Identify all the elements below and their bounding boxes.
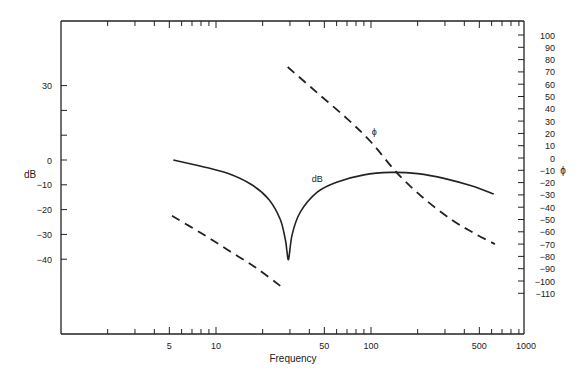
y2-tick-label: 30 xyxy=(545,117,555,127)
y2-tick-label: 10 xyxy=(545,141,555,151)
y2-tick-label: −100 xyxy=(535,277,555,287)
y2-tick-label: −70 xyxy=(540,240,555,250)
y2-tick-label: −90 xyxy=(540,264,555,274)
left-y-axis-label: dB xyxy=(24,169,37,180)
y2-tick-label: −20 xyxy=(540,178,555,188)
magnitude-curve xyxy=(173,160,494,260)
y2-tick-label: 50 xyxy=(545,92,555,102)
x-tick-label: 100 xyxy=(363,341,378,351)
y2-tick-label: 100 xyxy=(540,31,555,41)
x-tick-label: 10 xyxy=(211,341,221,351)
y2-tick-label: 90 xyxy=(545,43,555,53)
y2-tick-label: 60 xyxy=(545,80,555,90)
bode-plot: 510501005001000 300−10−20−30−40 10090807… xyxy=(0,0,579,381)
left-y-axis-ticks: 300−10−20−30−40 xyxy=(37,81,67,265)
inline-series-labels: dBϕ xyxy=(312,127,377,185)
series-label: dB xyxy=(312,174,323,184)
y2-tick-label: 40 xyxy=(545,104,555,114)
x-tick-label: 50 xyxy=(319,341,329,351)
plot-frame xyxy=(61,21,524,334)
y-tick-label: 30 xyxy=(42,81,52,91)
x-tick-label: 1000 xyxy=(516,341,536,351)
y-tick-label: −20 xyxy=(37,205,52,215)
y-tick-label: −30 xyxy=(37,230,52,240)
x-tick-label: 500 xyxy=(472,341,487,351)
series-label: ϕ xyxy=(372,127,377,137)
y2-tick-label: 70 xyxy=(545,67,555,77)
y2-tick-label: −50 xyxy=(540,215,555,225)
phase-curve xyxy=(288,67,495,244)
y2-tick-label: −60 xyxy=(540,227,555,237)
y2-tick-label: −30 xyxy=(540,190,555,200)
y2-tick-label: −80 xyxy=(540,252,555,262)
y2-tick-label: 20 xyxy=(545,129,555,139)
right-y-axis-label: ϕ xyxy=(560,165,566,176)
y-tick-label: −10 xyxy=(37,180,52,190)
y2-tick-label: −40 xyxy=(540,203,555,213)
x-axis-label: Frequency xyxy=(269,353,316,364)
y-tick-label: 0 xyxy=(47,156,52,166)
y2-tick-label: 80 xyxy=(545,55,555,65)
y2-tick-label: 0 xyxy=(550,154,555,164)
data-series xyxy=(172,67,495,286)
y2-tick-label: −10 xyxy=(540,166,555,176)
y2-tick-label: −110 xyxy=(535,289,555,299)
phase-curve xyxy=(172,216,280,286)
y-tick-label: −40 xyxy=(37,255,52,265)
x-tick-label: 5 xyxy=(167,341,172,351)
